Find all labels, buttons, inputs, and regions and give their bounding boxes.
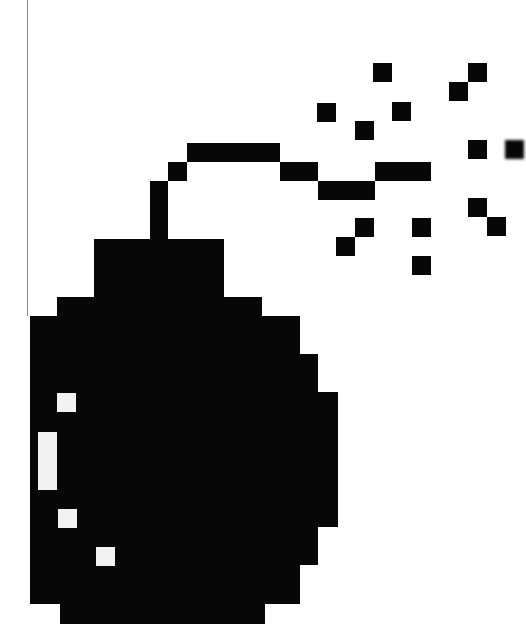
- left-edge-rule: [27, 0, 28, 316]
- fuse-segment: [168, 162, 187, 181]
- highlight-pixel: [38, 432, 57, 490]
- spark-pixel: [468, 63, 487, 82]
- fuse-segment: [280, 162, 318, 181]
- fuse-segment: [187, 143, 280, 162]
- bomb-illustration: [0, 0, 526, 624]
- body-row: [30, 316, 300, 354]
- body-row: [30, 527, 318, 565]
- body-row: [30, 565, 300, 604]
- spark-pixel: [449, 82, 468, 101]
- spark-pixel: [487, 217, 506, 236]
- spark-pixel: [355, 121, 374, 140]
- spark-pixel: [317, 103, 336, 122]
- body-row: [60, 604, 265, 624]
- body-row: [57, 297, 262, 316]
- spark-pixel: [468, 140, 487, 159]
- body-row: [30, 354, 318, 392]
- fuse-segment: [150, 181, 168, 240]
- spark-pixel: [468, 198, 487, 217]
- spark-pixel: [373, 63, 392, 82]
- spark-pixel: [355, 218, 374, 237]
- spark-pixel: [412, 256, 431, 275]
- highlight-pixel: [58, 509, 77, 528]
- spark-pixel: [505, 140, 524, 159]
- highlight-pixel: [96, 547, 115, 566]
- bomb-cap: [94, 239, 224, 297]
- fuse-segment: [375, 162, 431, 181]
- body-row: [30, 392, 338, 527]
- fuse-segment: [318, 181, 375, 200]
- spark-pixel: [392, 102, 411, 121]
- spark-pixel: [336, 237, 355, 256]
- highlight-pixel: [57, 393, 76, 412]
- spark-pixel: [412, 218, 431, 237]
